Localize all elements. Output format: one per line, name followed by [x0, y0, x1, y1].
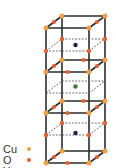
- cu-atom: [87, 111, 92, 116]
- o-atom: [87, 133, 91, 137]
- o-atom: [81, 99, 85, 103]
- cu-atom: [44, 70, 49, 75]
- cu-atom: [44, 26, 49, 31]
- ba-atom: [73, 131, 77, 135]
- o-atom: [95, 155, 99, 159]
- legend-label: Y: [3, 165, 25, 168]
- depth-bond: [46, 123, 62, 135]
- cu-atom: [103, 14, 108, 19]
- o-atom: [95, 105, 99, 109]
- o-atom: [52, 105, 56, 109]
- o-atom: [95, 20, 99, 24]
- depth-bond: [89, 81, 105, 93]
- cu-atom: [103, 58, 108, 63]
- o-atom: [44, 49, 48, 53]
- o-atom: [103, 121, 107, 125]
- depth-bond: [46, 39, 62, 51]
- cu-atom: [60, 58, 65, 63]
- cu-atom: [60, 14, 65, 19]
- cu-atom: [44, 161, 49, 166]
- o-atom: [60, 37, 64, 41]
- ba-atom: [73, 43, 77, 47]
- cu-atom: [44, 111, 49, 116]
- legend-item-y: Y: [3, 161, 31, 168]
- o-atom: [81, 58, 85, 62]
- depth-bond: [46, 81, 62, 93]
- o-atom: [52, 64, 56, 68]
- cu-atom: [103, 149, 108, 154]
- depth-bond: [89, 39, 105, 51]
- o-atom: [65, 161, 69, 165]
- o-atom: [44, 133, 48, 137]
- y-atom: [73, 84, 77, 88]
- o-atom: [103, 37, 107, 41]
- o-atom: [52, 155, 56, 159]
- cu-atom: [87, 70, 92, 75]
- cu-atom: [87, 26, 92, 31]
- o-atom: [87, 49, 91, 53]
- cu-atom: [87, 161, 92, 166]
- cu-atom: [60, 99, 65, 104]
- o-atom: [60, 121, 64, 125]
- o-atom: [95, 64, 99, 68]
- o-atom: [65, 111, 69, 115]
- cu-atom: [60, 149, 65, 154]
- cu-atom: [103, 99, 108, 104]
- o-atom: [52, 20, 56, 24]
- depth-bond: [89, 123, 105, 135]
- o-atom: [65, 70, 69, 74]
